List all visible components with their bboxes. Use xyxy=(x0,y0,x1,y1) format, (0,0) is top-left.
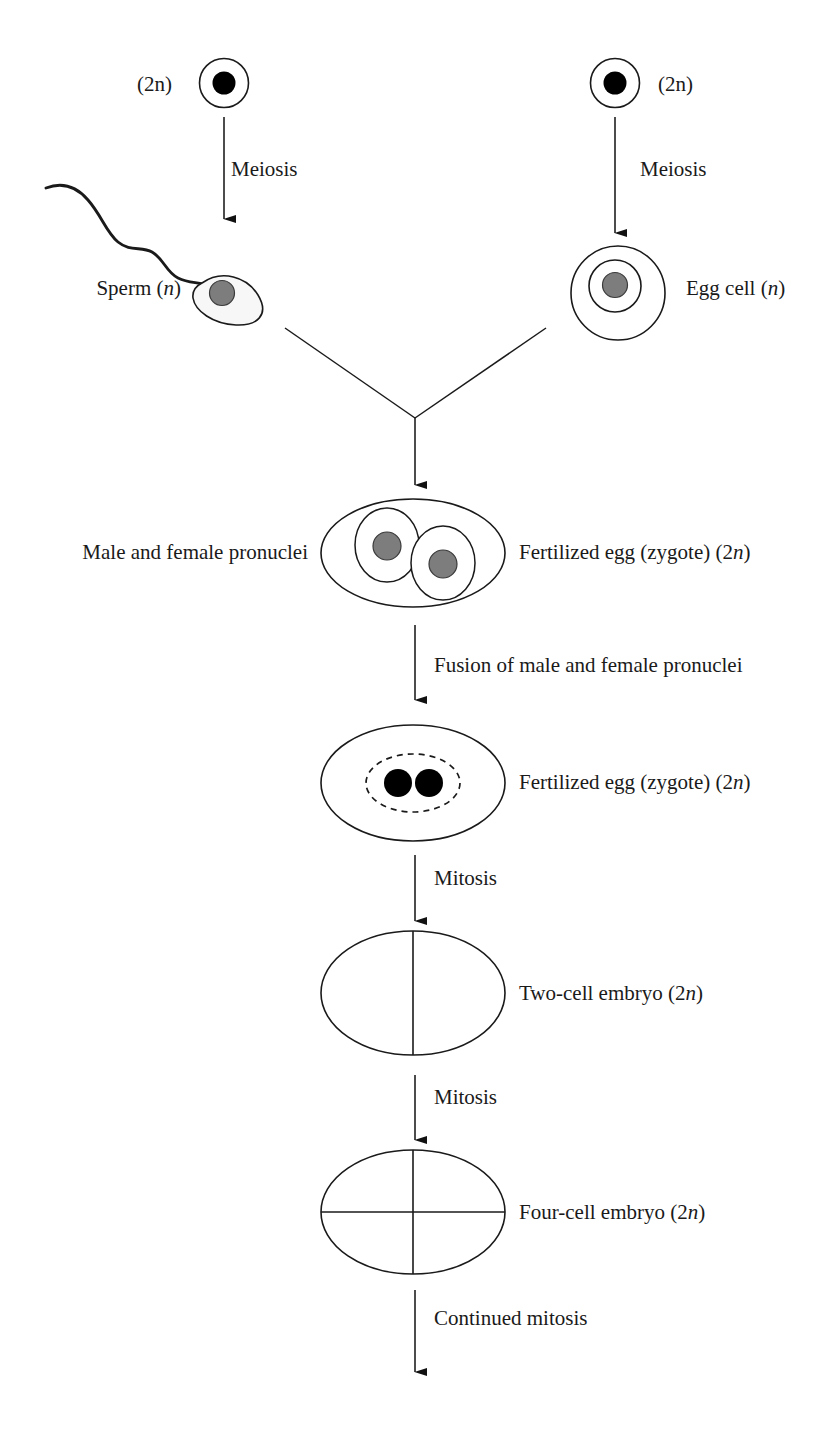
sperm-label: Sperm (n) xyxy=(0,276,181,300)
continued-mitosis-label: Continued mitosis xyxy=(434,1306,587,1330)
parent-cell-left-ploidy-label: (2n) xyxy=(137,72,172,96)
meiosis-left-label: Meiosis xyxy=(231,157,298,181)
chromatin-mass-female xyxy=(415,769,443,797)
zygote-fused-label: Fertilized egg (zygote) (2n) xyxy=(519,770,751,794)
chromatin-mass-male xyxy=(384,769,412,797)
egg-nucleus xyxy=(603,273,628,298)
sperm-cell xyxy=(46,185,263,325)
sperm-nucleus xyxy=(210,281,235,306)
mitosis-second-label: Mitosis xyxy=(434,1085,497,1109)
mitosis-first-label: Mitosis xyxy=(434,866,497,890)
zygote-pronuclei-label: Fertilized egg (zygote) (2n) xyxy=(519,540,751,564)
fertilization-diagram: (2n) Meiosis (2n) Meiosis Sperm (n) Egg … xyxy=(0,0,817,1435)
four-cell-embryo-label: Four-cell embryo (2n) xyxy=(519,1200,705,1224)
egg-cell xyxy=(571,246,665,340)
sperm-tail xyxy=(46,185,203,284)
fused-nucleus-envelope xyxy=(366,754,460,812)
four-cell-embryo xyxy=(321,1150,505,1274)
egg-cell-label: Egg cell (n) xyxy=(686,276,785,300)
zygote-pronuclei xyxy=(321,499,505,607)
zygote-fused xyxy=(321,725,505,841)
parent-cell-right xyxy=(591,59,640,108)
pronuclei-label: Male and female pronuclei xyxy=(0,540,308,564)
pronuclei-fusion-label: Fusion of male and female pronuclei xyxy=(434,653,743,677)
two-cell-embryo xyxy=(321,931,505,1055)
parent-cell-right-ploidy-label: (2n) xyxy=(658,72,693,96)
fertilization-junction xyxy=(285,328,546,485)
parent-cell-left xyxy=(200,59,249,108)
meiosis-right-label: Meiosis xyxy=(640,157,707,181)
male-pronucleus xyxy=(373,532,401,560)
female-pronucleus xyxy=(429,550,457,578)
two-cell-embryo-label: Two-cell embryo (2n) xyxy=(519,981,703,1005)
